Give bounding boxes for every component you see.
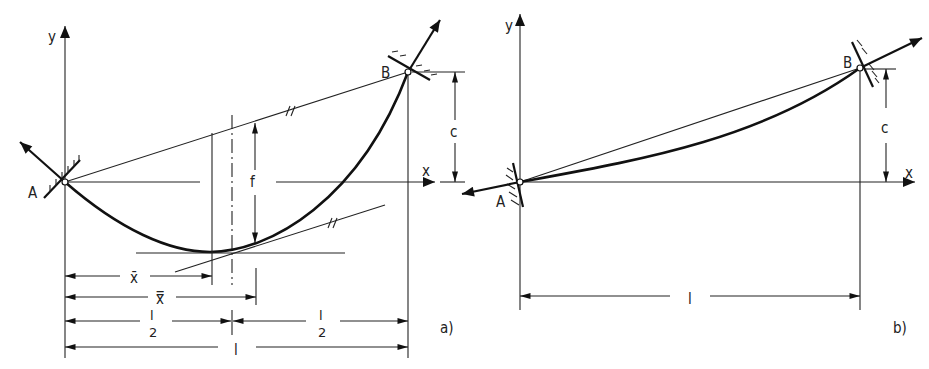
point-b-label-b: B: [843, 54, 852, 72]
panel-b-caption: b): [893, 319, 907, 337]
pin-b-icon: [405, 69, 411, 75]
cable-diagram: y x f c: [0, 0, 929, 369]
point-a-label-b: A: [496, 193, 506, 211]
support-b-panel-a: [388, 20, 440, 80]
parallel-mark-icon: [291, 106, 295, 116]
x-axis-label-a: x: [422, 162, 430, 180]
c-label-a: c: [450, 123, 457, 141]
x-bar-label: x̄: [130, 269, 138, 287]
reaction-arrow-b-b: [860, 38, 922, 68]
tangent-line: [175, 205, 385, 272]
pin-b-icon: [857, 65, 863, 71]
pin-a-icon: [517, 179, 523, 185]
point-b-label-a: B: [381, 64, 390, 82]
y-axis-label-a: y: [48, 28, 56, 46]
point-a-label-a: A: [28, 184, 38, 202]
parallel-mark-icon: [333, 218, 337, 228]
reaction-arrow-a-b: [462, 182, 520, 194]
y-axis-label-b: y: [505, 17, 513, 35]
x-axis-label-b: x: [905, 164, 913, 182]
span-label-b: l: [688, 290, 692, 308]
sag-label: f: [250, 173, 256, 191]
span-label-a: l: [234, 341, 238, 359]
half-span-num-2: l: [319, 308, 323, 323]
c-label-b: c: [881, 119, 888, 137]
half-span-den-1: 2: [149, 325, 157, 340]
reaction-arrow-b: [408, 20, 440, 72]
support-a-panel-b: [462, 163, 523, 207]
pin-a-icon: [62, 179, 68, 185]
half-span-num-1: l: [150, 308, 154, 323]
half-span-den-2: 2: [318, 325, 326, 340]
panel-a-caption: a): [440, 319, 454, 337]
panel-b: y x c l A: [462, 14, 922, 337]
cable-curve-a: [65, 72, 408, 252]
panel-a: y x f c: [20, 20, 465, 359]
x-double-bar-label: x̿: [156, 290, 164, 308]
chord-ab-b: [520, 68, 860, 182]
support-b-panel-b: [852, 38, 922, 87]
reaction-arrow-a: [20, 142, 65, 182]
